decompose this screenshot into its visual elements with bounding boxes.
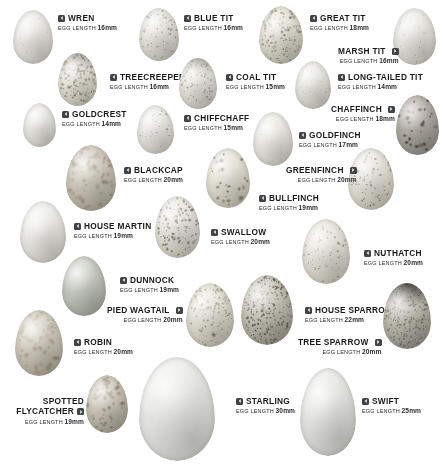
chevron-left-icon <box>184 115 191 122</box>
egg-length-value: 16mm <box>224 24 243 31</box>
chevron-left-icon <box>310 15 317 22</box>
egg-length-row: EGG LENGTH 19mm <box>259 204 319 212</box>
chevron-left-icon <box>62 111 69 118</box>
egg-length-caption: EGG LENGTH <box>322 349 360 355</box>
egg-rim <box>241 275 293 345</box>
chevron-right-icon <box>77 408 84 415</box>
egg-length-caption: EGG LENGTH <box>336 116 374 122</box>
egg-label-bullfinch: BULLFINCHEGG LENGTH 19mm <box>259 194 319 212</box>
egg-rim <box>137 105 174 154</box>
egg-label-greenfinch: GREENFINCHEGG LENGTH 20mm <box>286 166 357 184</box>
egg-length-value: 20mm <box>251 238 270 245</box>
egg-length-row: EGG LENGTH 20mm <box>74 348 133 356</box>
chevron-left-icon <box>124 167 131 174</box>
egg-length-caption: EGG LENGTH <box>310 25 348 31</box>
species-name-row: TREE SPARROW <box>298 338 382 347</box>
egg-length-value: 20mm <box>337 176 356 183</box>
species-name-row: GOLDCREST <box>62 110 127 119</box>
egg-length-value: 15mm <box>224 124 243 131</box>
egg-length-row: EGG LENGTH 14mm <box>62 120 127 128</box>
egg-length-caption: EGG LENGTH <box>124 317 162 323</box>
egg-rim <box>300 368 356 456</box>
egg-rim <box>302 219 350 284</box>
species-name-row: NUTHATCH <box>364 249 423 258</box>
egg-label-goldcrest: GOLDCRESTEGG LENGTH 14mm <box>62 110 127 128</box>
egg-length-row: EGG LENGTH 20mm <box>286 176 357 184</box>
egg-length-row: EGG LENGTH 16mm <box>338 57 399 65</box>
egg-length-row: EGG LENGTH 20mm <box>211 238 270 246</box>
species-name: TREECREEPER <box>120 73 185 82</box>
species-name-row: BLACKCAP <box>124 166 183 175</box>
egg-length-caption: EGG LENGTH <box>340 58 378 64</box>
egg-length-value: 16mm <box>150 83 169 90</box>
egg-length-row: EGG LENGTH 15mm <box>184 124 249 132</box>
egg-length-row: EGG LENGTH 19mm <box>12 418 84 426</box>
egg-length-value: 19mm <box>65 418 84 425</box>
chevron-left-icon <box>338 74 345 81</box>
egg-length-row: EGG LENGTH 20mm <box>124 176 183 184</box>
egg-length-caption: EGG LENGTH <box>25 419 63 425</box>
egg-label-tree-sparrow: TREE SPARROWEGG LENGTH 20mm <box>298 338 382 356</box>
egg-rim <box>139 8 179 61</box>
chevron-right-icon <box>176 307 183 314</box>
egg-length-value: 20mm <box>114 348 133 355</box>
egg-length-caption: EGG LENGTH <box>74 233 112 239</box>
species-name: DUNNOCK <box>130 276 174 285</box>
species-name: HOUSE MARTIN <box>84 222 151 231</box>
egg-length-caption: EGG LENGTH <box>299 142 337 148</box>
species-name-row: WREN <box>58 14 117 23</box>
egg-length-value: 18mm <box>375 115 394 122</box>
egg-rim <box>139 357 215 461</box>
egg-label-treecreeper: TREECREEPEREGG LENGTH 16mm <box>110 73 185 91</box>
chevron-left-icon <box>226 74 233 81</box>
species-name: LONG-TAILED TIT <box>348 73 423 82</box>
egg-label-goldfinch: GOLDFINCHEGG LENGTH 17mm <box>299 131 361 149</box>
egg-length-value: 19mm <box>160 286 179 293</box>
egg-length-row: EGG LENGTH 20mm <box>107 316 183 324</box>
chevron-right-icon <box>375 339 382 346</box>
species-name: STARLING <box>246 397 290 406</box>
egg-long-tailed-tit <box>295 61 331 109</box>
species-name: BLACKCAP <box>134 166 183 175</box>
egg-label-swallow: SWALLOWEGG LENGTH 20mm <box>211 228 270 246</box>
egg-goldfinch <box>253 112 293 166</box>
egg-starling <box>139 357 215 461</box>
egg-coal-tit <box>179 58 217 109</box>
egg-rim <box>86 375 128 433</box>
egg-length-value: 25mm <box>402 407 421 414</box>
egg-length-row: EGG LENGTH 22mm <box>305 316 393 324</box>
egg-label-robin: ROBINEGG LENGTH 20mm <box>74 338 133 356</box>
egg-bullfinch <box>206 148 250 208</box>
egg-label-long-tailed-tit: LONG-TAILED TITEGG LENGTH 14mm <box>338 73 423 91</box>
egg-length-row: EGG LENGTH 16mm <box>110 83 185 91</box>
egg-length-caption: EGG LENGTH <box>184 25 222 31</box>
egg-length-caption: EGG LENGTH <box>184 125 222 131</box>
species-name-row: BULLFINCH <box>259 194 319 203</box>
species-name-row: GREENFINCH <box>286 166 357 175</box>
egg-length-value: 17mm <box>339 141 358 148</box>
egg-identification-chart: WRENEGG LENGTH 16mmBLUE TITEGG LENGTH 16… <box>0 0 443 476</box>
species-name: BLUE TIT <box>194 14 234 23</box>
species-name: GREENFINCH <box>286 166 344 175</box>
egg-rim <box>253 112 293 166</box>
chevron-left-icon <box>259 195 266 202</box>
egg-length-row: EGG LENGTH 14mm <box>338 83 423 91</box>
chevron-left-icon <box>74 223 81 230</box>
egg-label-chaffinch: CHAFFINCHEGG LENGTH 18mm <box>331 105 395 123</box>
egg-chiffchaff <box>137 105 174 154</box>
egg-rim <box>396 95 439 155</box>
species-name: GREAT TIT <box>320 14 366 23</box>
egg-blackcap <box>66 145 116 211</box>
egg-label-nuthatch: NUTHATCHEGG LENGTH 20mm <box>364 249 423 267</box>
egg-length-value: 20mm <box>164 176 183 183</box>
egg-label-coal-tit: COAL TITEGG LENGTH 15mm <box>226 73 285 91</box>
chevron-left-icon <box>184 15 191 22</box>
egg-rim <box>259 6 303 64</box>
egg-rim <box>206 148 250 208</box>
species-name: ROBIN <box>84 338 112 347</box>
chevron-left-icon <box>305 307 312 314</box>
egg-length-caption: EGG LENGTH <box>58 25 96 31</box>
species-name-row: SPOTTED FLYCATCHER <box>12 396 84 416</box>
chevron-left-icon <box>58 15 65 22</box>
egg-rim <box>295 61 331 109</box>
